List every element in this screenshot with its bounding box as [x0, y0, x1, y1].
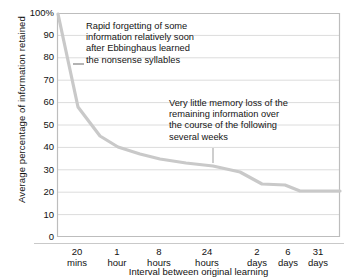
- ebbinghaus-forgetting-curve-chart: Average percentage of information retain…: [0, 0, 344, 279]
- annotation-rapid-forgetting: Rapid forgetting of some information rel…: [86, 21, 194, 66]
- x-tick-2-days-value: 2: [254, 246, 259, 257]
- x-tick-24-hours-value: 24: [202, 246, 213, 257]
- x-tick-31-days: 31 days: [295, 246, 341, 268]
- x-tick-8-hours-value: 8: [156, 246, 161, 257]
- x-tick-6-days-value: 6: [285, 246, 290, 257]
- x-tick-20-mins-value: 20: [72, 246, 83, 257]
- x-tick-8-hours: 8 hours: [136, 246, 182, 268]
- x-axis-title: Interval between original learning: [57, 266, 340, 277]
- annotation-very-little-loss: Very little memory loss of the remaining…: [169, 98, 288, 143]
- x-tick-31-days-value: 31: [313, 246, 324, 257]
- x-tick-1-hour: 1 hour: [94, 246, 140, 268]
- x-tick-24-hours: 24 hours: [184, 246, 230, 268]
- x-tick-1-hour-value: 1: [114, 246, 119, 257]
